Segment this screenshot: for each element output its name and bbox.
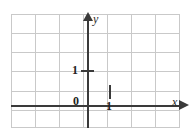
grid-line-horizontal (11, 127, 180, 128)
x-axis-label: x (172, 96, 177, 108)
y-axis-tick-label-one: 1 (72, 64, 78, 76)
x-axis-line (11, 105, 181, 107)
grid-line-horizontal (11, 71, 180, 72)
grid-line-horizontal (11, 91, 180, 92)
y-axis-tick-one (81, 70, 94, 72)
coordinate-plane-figure: y x 1 0 1 (0, 0, 193, 140)
x-axis-tick-one (109, 85, 111, 99)
y-axis-label: y (93, 13, 98, 25)
grid-line-horizontal (11, 52, 180, 53)
y-axis-arrowhead-icon (83, 12, 93, 21)
grid-line-horizontal (11, 33, 180, 34)
grid-area (11, 14, 180, 128)
x-axis-arrowhead-icon (179, 100, 189, 110)
grid-line-horizontal (11, 110, 180, 111)
y-axis-line (87, 18, 89, 128)
origin-label: 0 (73, 95, 79, 107)
x-axis-tick-label-one: 1 (106, 100, 112, 112)
